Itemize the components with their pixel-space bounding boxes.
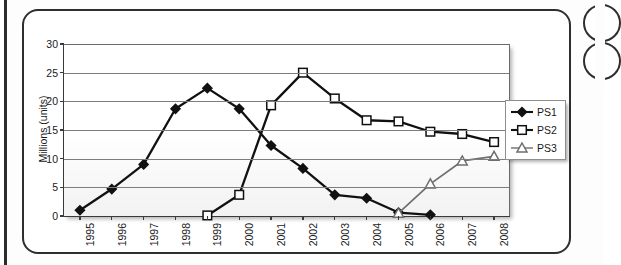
plot-area: 0510152025301995199619971998199920002001… (63, 44, 510, 217)
open-square-marker (518, 126, 527, 135)
y-tick-mark (60, 215, 64, 216)
x-tick-label: 1996 (117, 223, 128, 246)
page-left-rule (4, 0, 7, 265)
x-tick-mark (79, 216, 80, 220)
x-tick-label: 2005 (404, 223, 415, 246)
x-tick-label: 1998 (181, 223, 192, 246)
series-line-ps3 (399, 156, 495, 213)
x-tick-mark (493, 216, 494, 220)
x-tick-mark (111, 216, 112, 220)
x-tick-mark (334, 216, 335, 220)
x-tick-mark (366, 216, 367, 220)
x-tick-label: 1997 (149, 223, 160, 246)
y-tick-label: 15 (46, 125, 58, 136)
x-tick-mark (143, 216, 144, 220)
x-tick-mark (302, 216, 303, 220)
gridline (64, 130, 510, 131)
y-tick-mark (60, 43, 64, 44)
filled-diamond-marker (517, 107, 526, 116)
legend-label: PS2 (537, 125, 557, 136)
gridline (64, 159, 510, 160)
legend-item-ps2[interactable]: PS2 (510, 123, 565, 137)
open-square-marker (267, 101, 276, 110)
x-tick-mark (175, 216, 176, 220)
x-tick-mark (398, 216, 399, 220)
y-tick-mark (60, 129, 64, 130)
x-tick-label: 2008 (499, 223, 510, 246)
filled-diamond-icon (510, 106, 534, 118)
x-tick-label: 1999 (212, 223, 223, 246)
y-tick-mark (60, 158, 64, 159)
x-tick-label: 2003 (340, 223, 351, 246)
series-line-ps2 (207, 73, 494, 216)
gridline (64, 44, 510, 45)
y-tick-mark (60, 72, 64, 73)
x-tick-label: 2002 (308, 223, 319, 246)
x-tick-label: 2000 (244, 223, 255, 246)
y-tick-label: 5 (52, 182, 58, 193)
x-tick-mark (239, 216, 240, 220)
y-tick-label: 0 (52, 211, 58, 222)
x-tick-mark (207, 216, 208, 220)
legend-item-ps1[interactable]: PS1 (510, 105, 565, 119)
gridline (64, 101, 510, 102)
filled-diamond-marker (362, 194, 371, 203)
y-tick-label: 25 (46, 68, 58, 79)
legend-label: PS3 (537, 143, 557, 154)
x-tick-label: 2006 (435, 223, 446, 246)
series-markers-ps3 (394, 151, 500, 217)
y-tick-label: 20 (46, 96, 58, 107)
open-triangle-icon (510, 142, 534, 154)
open-square-marker (394, 117, 403, 126)
open-square-marker (362, 116, 371, 125)
y-tick-mark (60, 187, 64, 188)
x-tick-label: 2001 (276, 223, 287, 246)
open-square-marker (426, 127, 435, 136)
x-tick-mark (430, 216, 431, 220)
gridline (64, 73, 510, 74)
y-tick-label: 30 (46, 39, 58, 50)
x-tick-label: 1995 (85, 223, 96, 246)
legend-item-ps3[interactable]: PS3 (510, 141, 565, 155)
x-tick-mark (270, 216, 271, 220)
y-tick-mark (60, 101, 64, 102)
y-tick-label: 10 (46, 154, 58, 165)
gridline (64, 187, 510, 188)
x-tick-label: 2007 (467, 223, 478, 246)
open-square-icon (510, 124, 534, 136)
page-edge-mask (595, 0, 605, 90)
chart-legend: PS1PS2PS3 (505, 100, 566, 160)
open-square-marker (490, 138, 499, 147)
x-tick-mark (462, 216, 463, 220)
open-square-marker (458, 130, 467, 139)
line-chart: Millions (units) 05101520253019951996199… (22, 9, 571, 254)
open-square-marker (235, 190, 244, 199)
x-tick-label: 2004 (372, 223, 383, 246)
legend-label: PS1 (537, 107, 557, 118)
